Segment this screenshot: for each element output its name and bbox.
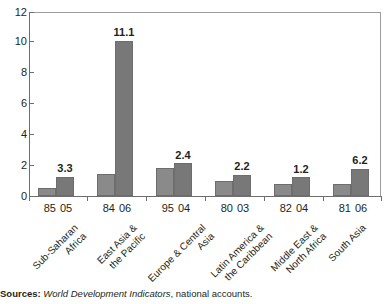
- y-axis-label-0: 0: [1, 191, 27, 202]
- year-later-1: 05: [60, 202, 72, 214]
- year-earlier-1: 85: [44, 202, 56, 214]
- bar-europe-central-asia-1995: [156, 168, 174, 196]
- y-axis-label-12: 12: [1, 7, 27, 18]
- x-tick-0: [29, 196, 30, 201]
- y-axis-label-4: 4: [1, 129, 27, 140]
- year-earlier-4: 80: [221, 202, 233, 214]
- year-later-4: 03: [237, 202, 249, 214]
- y-tick-8: [29, 72, 34, 73]
- x-tick-5: [323, 196, 324, 201]
- source-publication: World Development Indicators: [43, 288, 170, 299]
- bar-east-asia-pacific-2006: [115, 41, 133, 196]
- year-pair-sub-saharan-africa: 8505: [28, 202, 88, 214]
- bar-middle-east-north-africa-1982: [274, 184, 292, 196]
- source-prefix: Sources:: [0, 288, 41, 299]
- bar-europe-central-asia-2004: [174, 163, 192, 196]
- x-tick-1: [87, 196, 88, 201]
- bar-sub-saharan-africa-2005: [56, 177, 74, 196]
- value-label-sub-saharan-africa: 3.3: [45, 163, 85, 174]
- category-label-south-asia: South Asia: [318, 222, 369, 273]
- year-earlier-6: 81: [339, 202, 351, 214]
- year-pair-middle-east-north-africa: 8204: [264, 202, 324, 214]
- value-label-south-asia: 6.2: [340, 155, 380, 166]
- year-earlier-5: 82: [280, 202, 292, 214]
- year-pair-east-asia-pacific: 8406: [87, 202, 147, 214]
- y-axis-label-6: 6: [1, 98, 27, 109]
- x-tick-2: [146, 196, 147, 201]
- year-later-3: 04: [178, 202, 190, 214]
- value-label-east-asia-pacific: 11.1: [104, 27, 144, 38]
- y-axis-label-2: 2: [1, 160, 27, 171]
- bar-latin-america-caribbean-2003: [233, 175, 251, 196]
- bar-sub-saharan-africa-1985: [38, 188, 56, 197]
- category-label-line1: South Asia: [326, 222, 368, 264]
- y-axis-label-8: 8: [1, 67, 27, 78]
- bar-east-asia-pacific-1984: [97, 174, 115, 196]
- x-tick-6: [381, 196, 382, 201]
- value-label-latin-america-caribbean: 2.2: [222, 161, 262, 172]
- y-tick-2: [29, 165, 34, 166]
- y-axis-label-10: 10: [1, 36, 27, 47]
- category-label-sub-saharan-africa: Sub-Saharan Africa: [21, 222, 88, 289]
- y-axis-line: [29, 12, 30, 197]
- chart-figure: 0 2 4 6 8 10 12 3.3 8505 Sub-Saharan Afr…: [0, 0, 388, 304]
- year-later-6: 06: [355, 202, 367, 214]
- year-pair-latin-america-caribbean: 8003: [205, 202, 265, 214]
- source-note: Sources: World Development Indicators, n…: [0, 288, 252, 299]
- y-tick-10: [29, 41, 34, 42]
- bar-latin-america-caribbean-1980: [215, 181, 233, 196]
- y-tick-4: [29, 134, 34, 135]
- x-tick-3: [205, 196, 206, 201]
- year-pair-south-asia: 8106: [323, 202, 383, 214]
- year-earlier-3: 95: [162, 202, 174, 214]
- bar-middle-east-north-africa-2004: [292, 177, 310, 196]
- y-tick-6: [29, 103, 34, 104]
- value-label-middle-east-north-africa: 1.2: [281, 164, 321, 175]
- bar-south-asia-2006: [351, 169, 369, 196]
- x-tick-4: [264, 196, 265, 201]
- year-pair-europe-central-asia: 9504: [146, 202, 206, 214]
- bar-south-asia-1981: [333, 184, 351, 196]
- y-tick-12: [29, 12, 34, 13]
- year-earlier-2: 84: [103, 202, 115, 214]
- value-label-europe-central-asia: 2.4: [163, 150, 203, 161]
- year-later-2: 06: [119, 202, 131, 214]
- category-label-east-asia-pacific: East Asia & the Pacific: [80, 222, 147, 289]
- source-rest: , national accounts.: [171, 288, 253, 299]
- year-later-5: 04: [296, 202, 308, 214]
